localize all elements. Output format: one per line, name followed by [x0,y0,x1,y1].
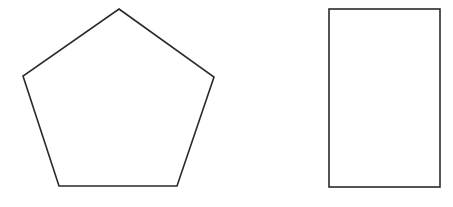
diagram-canvas [0,0,453,207]
pentagon-shape [23,9,214,186]
shapes-svg [0,0,453,207]
rectangle-shape [329,9,440,187]
